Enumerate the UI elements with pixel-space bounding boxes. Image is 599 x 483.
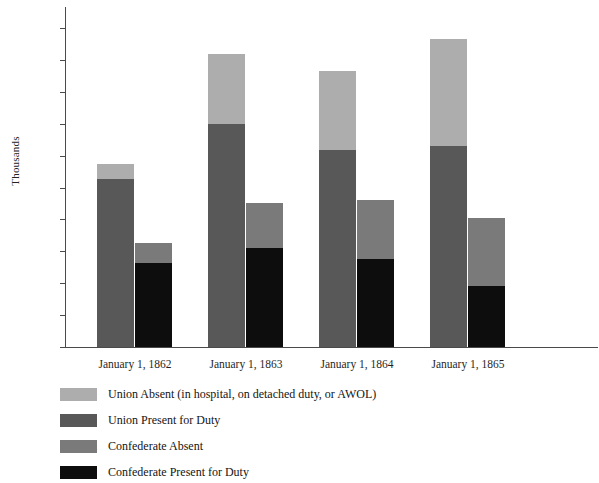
union-bar <box>208 54 245 347</box>
legend-item: Union Absent (in hospital, on detached d… <box>60 381 580 407</box>
y-tick-500 <box>60 188 66 189</box>
y-tick-200 <box>60 283 66 284</box>
legend-label: Union Absent (in hospital, on detached d… <box>108 388 376 401</box>
confederate-bar <box>357 200 394 347</box>
y-tick-900 <box>60 60 66 61</box>
plot-area: 1,0009008007006005004003002001000 Januar… <box>65 7 598 348</box>
y-tick-800 <box>60 92 66 93</box>
union-absent-segment <box>430 39 467 146</box>
legend-swatch <box>60 466 97 479</box>
x-axis-label: January 1, 1865 <box>393 358 543 371</box>
y-tick-300 <box>60 251 66 252</box>
legend-swatch <box>60 440 97 453</box>
x-axis-line <box>65 347 598 348</box>
legend-label: Union Present for Duty <box>108 414 220 427</box>
y-axis-line <box>65 7 66 348</box>
union-absent-segment <box>319 71 356 150</box>
y-tick-100 <box>60 315 66 316</box>
legend-label: Confederate Absent <box>108 440 203 453</box>
confederate-bar <box>246 203 283 348</box>
confederate-present-segment <box>357 259 394 347</box>
union-present-segment <box>430 146 467 347</box>
y-tick-400 <box>60 219 66 220</box>
confederate-present-segment <box>246 248 283 347</box>
legend-label: Confederate Present for Duty <box>108 466 249 479</box>
confederate-absent-segment <box>357 200 394 259</box>
confederate-present-segment <box>135 263 172 347</box>
legend-swatch <box>60 388 97 401</box>
y-tick-700 <box>60 124 66 125</box>
union-bar <box>97 164 134 347</box>
union-present-segment <box>319 150 356 347</box>
confederate-bar <box>135 243 172 347</box>
legend-item: Confederate Present for Duty <box>60 459 580 483</box>
y-axis-title: Thousands <box>9 116 21 206</box>
confederate-absent-segment <box>468 218 505 286</box>
union-present-segment <box>208 124 245 347</box>
confederate-absent-segment <box>246 203 283 248</box>
chart-legend: Union Absent (in hospital, on detached d… <box>60 381 580 483</box>
y-tick-600 <box>60 156 66 157</box>
legend-swatch <box>60 414 97 427</box>
union-present-segment <box>97 179 134 347</box>
legend-item: Confederate Absent <box>60 433 580 459</box>
y-tick-1000 <box>60 28 66 29</box>
legend-item: Union Present for Duty <box>60 407 580 433</box>
confederate-present-segment <box>468 286 505 347</box>
confederate-bar <box>468 218 505 347</box>
confederate-absent-segment <box>135 243 172 263</box>
y-tick-0 <box>60 347 66 348</box>
union-absent-segment <box>97 164 134 179</box>
union-bar <box>319 71 356 347</box>
union-bar <box>430 39 467 347</box>
union-absent-segment <box>208 54 245 125</box>
